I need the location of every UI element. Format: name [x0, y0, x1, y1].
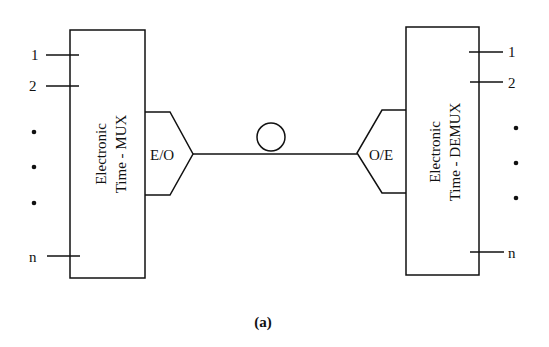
output-label-n: n: [508, 245, 516, 261]
ellipsis-dot: [514, 126, 519, 131]
mux-label-line2: Time - MUX: [113, 115, 129, 194]
ellipsis-dot: [514, 161, 519, 166]
ellipsis-dot: [32, 165, 37, 170]
oe-label: O/E: [369, 147, 393, 163]
demux-label-line2: Time - DEMUX: [447, 103, 463, 202]
output-label-2: 2: [508, 75, 516, 91]
input-label-n: n: [29, 249, 37, 265]
mux-label-line1: Electronic: [93, 123, 109, 185]
figure-caption: (a): [254, 314, 272, 331]
tdm-link-diagram: 1 2 n 1 2 n Electronic Time - MUX Electr…: [0, 0, 549, 347]
ellipsis-dot: [514, 196, 519, 201]
ellipsis-dot: [32, 130, 37, 135]
eo-label: E/O: [150, 147, 174, 163]
ellipsis-dot: [32, 201, 37, 206]
input-label-2: 2: [29, 78, 37, 94]
input-label-1: 1: [31, 47, 39, 63]
demux-label-line1: Electronic: [427, 121, 443, 183]
fiber-loop-icon: [257, 123, 285, 151]
output-label-1: 1: [508, 44, 516, 60]
